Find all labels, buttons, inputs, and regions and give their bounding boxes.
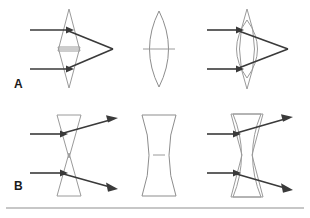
refracted-ray-lower bbox=[66, 49, 113, 69]
diverged-ray-upper bbox=[233, 119, 285, 134]
tall-convex-outline bbox=[240, 9, 255, 89]
row-a-group: A bbox=[14, 9, 288, 91]
panel-prism-pair-with-convex-lens bbox=[207, 9, 288, 89]
row-label-b: B bbox=[14, 179, 23, 193]
arrowhead-diverged-lower bbox=[106, 182, 118, 191]
panel-biconcave-lens bbox=[142, 115, 176, 196]
arrowhead-diverged-upper bbox=[281, 114, 293, 121]
refracted-ray-upper bbox=[236, 30, 288, 49]
panel-biconvex-lens bbox=[143, 11, 175, 87]
row-label-a: A bbox=[14, 77, 23, 91]
arrowhead-diverged-lower bbox=[281, 183, 293, 192]
refracted-ray-lower bbox=[236, 49, 288, 69]
panel-prism-pair-diverging bbox=[30, 115, 118, 196]
diverged-ray-upper bbox=[60, 120, 110, 134]
figure-canvas: A bbox=[0, 0, 310, 218]
row-b-group: B bbox=[14, 114, 293, 197]
optics-figure: A bbox=[0, 0, 310, 218]
panel-prism-pair-converging bbox=[30, 9, 113, 88]
refracted-ray-upper bbox=[66, 30, 113, 49]
arrowhead-diverged-upper bbox=[106, 115, 118, 122]
diverged-ray-lower bbox=[233, 173, 285, 188]
panel-prism-pair-with-concave-lens bbox=[207, 114, 293, 197]
diverged-ray-lower bbox=[60, 173, 110, 187]
